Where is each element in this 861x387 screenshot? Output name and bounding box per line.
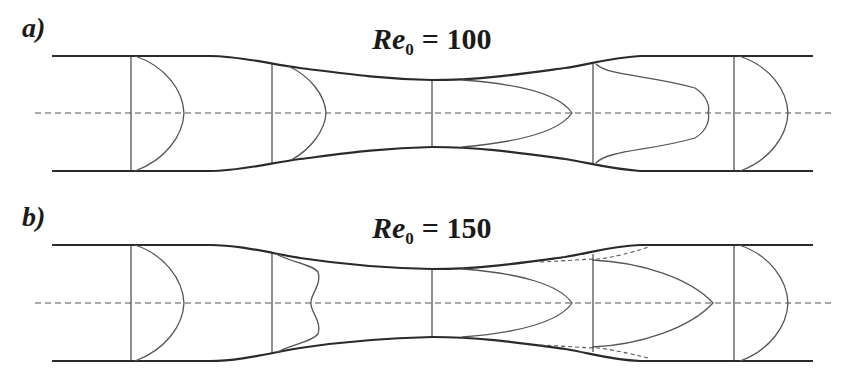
velocity-profile [596, 64, 709, 163]
panel-b-channel [35, 245, 835, 361]
panel-a-channel [35, 56, 835, 171]
channel-diagram [0, 0, 861, 387]
velocity-profile-figure: a) Re0= 100 b) Re0= 150 [0, 0, 861, 387]
top-wall [52, 245, 813, 269]
top-wall [52, 56, 813, 80]
